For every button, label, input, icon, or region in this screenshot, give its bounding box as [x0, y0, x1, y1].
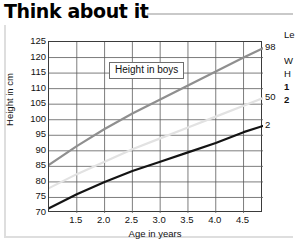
x-tick-label: 3.0	[144, 214, 174, 225]
x-tick-label: 2.5	[116, 214, 146, 225]
percentile-label-50: 50	[265, 92, 276, 102]
x-tick-label: 4.0	[200, 214, 230, 225]
y-tick-label: 85	[2, 160, 46, 170]
y-tick-label: 90	[2, 145, 46, 155]
percentile-label-98: 98	[265, 42, 276, 52]
x-axis-ticks: 1.52.02.53.03.54.04.5	[48, 214, 262, 227]
side-note-column: LeWH12	[284, 30, 295, 108]
page-title: Think about it	[4, 0, 148, 22]
y-tick-label: 125	[2, 36, 46, 46]
series-line-p2	[49, 126, 263, 208]
x-tick-label: 3.5	[172, 214, 202, 225]
percentile-label-2: 2	[265, 120, 270, 130]
page-header: Think about it	[0, 0, 295, 26]
title-divider	[147, 13, 293, 15]
growth-chart: 707580859095100105110115120125 Height in…	[0, 26, 295, 226]
side-note-line: 2	[284, 95, 295, 108]
plot-area: Height in boys	[48, 41, 262, 212]
x-tick-label: 1.5	[61, 214, 91, 225]
x-tick-label: 4.5	[228, 214, 258, 225]
y-tick-label: 80	[2, 176, 46, 186]
y-axis-label: Height in cm	[4, 60, 15, 140]
y-tick-label: 70	[2, 207, 46, 217]
x-axis-label: Age in years	[48, 228, 262, 239]
x-tick-label: 2.0	[89, 214, 119, 225]
side-note-line: Le	[284, 30, 295, 43]
y-tick-label: 75	[2, 191, 46, 201]
legend-box: Height in boys	[109, 62, 184, 79]
